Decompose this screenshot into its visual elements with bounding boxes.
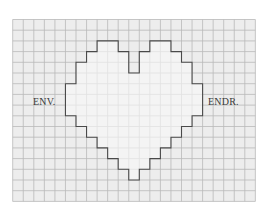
label-endr: ENDR. bbox=[208, 96, 239, 107]
label-env: ENV. bbox=[33, 96, 56, 107]
grid-diagram bbox=[0, 0, 275, 219]
